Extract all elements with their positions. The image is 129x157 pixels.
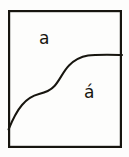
bounding-rectangle [9,11,121,147]
figure-drawing [0,0,129,157]
region-label-lower: á [84,84,94,101]
region-label-upper: a [39,30,49,47]
s-curve-boundary [9,55,123,130]
figure-container: a á [0,0,129,157]
